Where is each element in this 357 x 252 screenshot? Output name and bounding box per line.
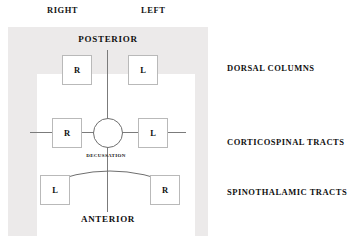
legend-label-spinothalamic-tracts: SPINOTHALAMIC TRACTS (227, 187, 347, 197)
diagram-canvas: RIGHT LEFT DECUSSATION R L R L L R POSTE… (0, 0, 357, 252)
tract-box-label: L (129, 65, 157, 75)
tract-box-label: L (41, 185, 69, 195)
tract-box-dorsal-column-left[interactable]: L (128, 55, 158, 85)
central-canal-circle (93, 118, 123, 148)
legend-label-dorsal-columns: DORSAL COLUMNS (227, 63, 315, 73)
tract-box-label: R (53, 128, 81, 138)
tract-box-spinothalamic-left[interactable]: L (40, 175, 70, 205)
tract-box-label: L (139, 128, 167, 138)
tract-box-corticospinal-right[interactable]: R (52, 118, 82, 148)
orientation-label-anterior: ANTERIOR (8, 214, 208, 224)
tract-box-spinothalamic-right[interactable]: R (150, 175, 180, 205)
orientation-label-right: RIGHT (47, 5, 78, 15)
orientation-label-left: LEFT (141, 5, 165, 15)
tract-box-corticospinal-left[interactable]: L (138, 118, 168, 148)
tract-box-label: R (151, 185, 179, 195)
tract-box-dorsal-column-right[interactable]: R (62, 55, 92, 85)
orientation-label-posterior: POSTERIOR (8, 34, 208, 44)
decussation-label: DECUSSATION (60, 153, 152, 158)
legend-label-corticospinal-tracts: CORTICOSPINAL TRACTS (227, 137, 344, 147)
tract-box-label: R (63, 65, 91, 75)
